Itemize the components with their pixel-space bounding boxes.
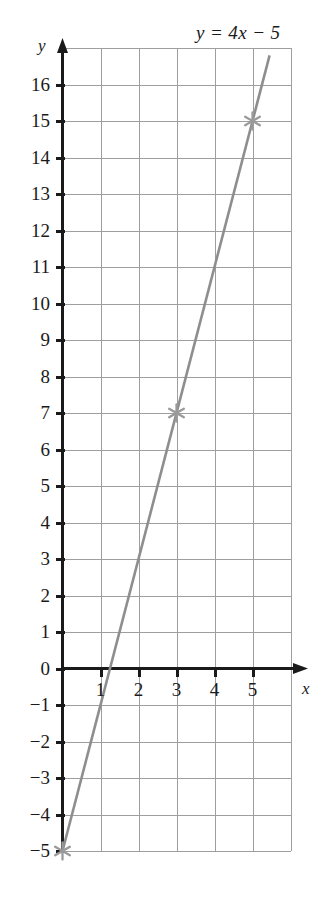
y-tick-label: −1 — [10, 694, 50, 716]
y-tick-label: −4 — [10, 804, 50, 826]
y-tick-label: 4 — [10, 512, 50, 534]
y-tick-label: 5 — [10, 475, 50, 497]
y-tick-label: 14 — [10, 147, 50, 169]
y-tick-label: −5 — [10, 840, 50, 862]
x-tick-label: 4 — [203, 679, 227, 701]
x-axis-label: x — [302, 679, 310, 699]
y-tick-label: 3 — [10, 548, 50, 570]
y-tick-label: −3 — [10, 767, 50, 789]
y-tick-label: 7 — [10, 402, 50, 424]
y-tick-label: 2 — [10, 585, 50, 607]
y-axis-label: y — [38, 36, 46, 56]
y-tick-label: 10 — [10, 293, 50, 315]
y-tick-label: 8 — [10, 366, 50, 388]
y-tick-label: 16 — [10, 74, 50, 96]
y-tick-label: 6 — [10, 439, 50, 461]
x-tick-label: 3 — [165, 679, 189, 701]
y-tick-label: −2 — [10, 731, 50, 753]
x-tick-label: 1 — [89, 679, 113, 701]
y-tick-label: 1 — [10, 621, 50, 643]
graph-figure: y = 4x − 5 y x 161514131211109876543210−… — [0, 0, 328, 897]
x-tick-label: 5 — [241, 679, 265, 701]
y-tick-label: 15 — [10, 110, 50, 132]
equation-label: y = 4x − 5 — [196, 22, 281, 44]
y-tick-label: 0 — [10, 658, 50, 680]
y-tick-label: 11 — [10, 256, 50, 278]
y-tick-label: 9 — [10, 329, 50, 351]
x-tick-label: 2 — [127, 679, 151, 701]
y-tick-label: 13 — [10, 183, 50, 205]
y-tick-label: 12 — [10, 220, 50, 242]
